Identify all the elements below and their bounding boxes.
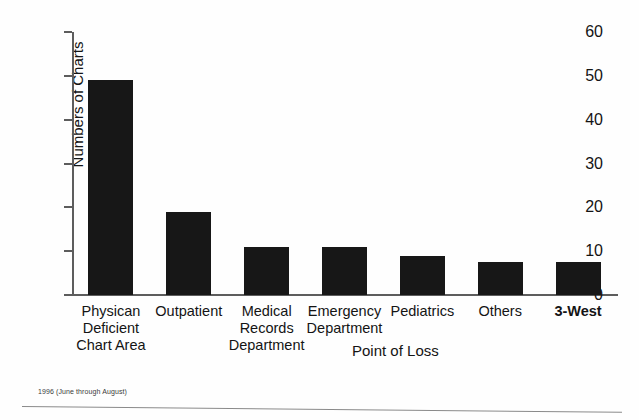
category-label-line: Deficient	[55, 320, 167, 337]
footnote: 1996 (June through August)	[38, 388, 127, 395]
category-label-line: Chart Area	[55, 337, 167, 354]
category-label-line: Department	[211, 337, 323, 354]
y-axis-tick-label: 20	[585, 199, 603, 215]
y-axis-tick-label: 10	[585, 243, 603, 259]
bar	[478, 262, 523, 295]
y-axis-tick-label: 60	[585, 24, 603, 40]
bar	[556, 262, 601, 295]
y-axis-tick	[64, 31, 72, 33]
category-label-line: Department	[289, 320, 401, 337]
x-axis-category-label: 3-West	[522, 303, 634, 320]
y-axis-tick	[64, 206, 72, 208]
plot-area: 0102030405060	[72, 32, 617, 295]
x-axis-title: Point of Loss	[352, 342, 439, 359]
y-axis-tick-label: 50	[585, 68, 603, 84]
y-axis-tick	[64, 250, 72, 252]
y-axis-tick-label: 30	[585, 156, 603, 172]
bar	[166, 212, 211, 295]
chart-page: Numbers of Charts 0102030405060 Physican…	[0, 0, 639, 420]
y-axis-tick	[64, 163, 72, 165]
y-axis-tick	[64, 119, 72, 121]
bottom-divider	[22, 406, 622, 413]
y-axis-tick	[64, 75, 72, 77]
bar	[88, 80, 133, 295]
category-label-line: 3-West	[522, 303, 634, 320]
y-axis-tick	[64, 294, 72, 296]
bar	[400, 256, 445, 295]
bar	[244, 247, 289, 295]
bar	[322, 247, 367, 295]
y-axis-tick-label: 40	[585, 112, 603, 128]
